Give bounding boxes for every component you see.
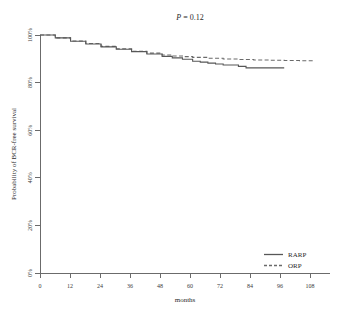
kaplan-meier-figure: P=0.12 100% 80% 60% 40% 20% 0% 0 12 [0,0,345,312]
x-tick-label: 60 [187,283,193,289]
x-tick-label: 96 [277,283,283,289]
plot-title-value: 0.12 [190,13,204,22]
x-tick-label: 48 [157,283,163,289]
x-tick-label: 0 [39,283,42,289]
y-tick-label: 0% [27,269,33,277]
x-tick-label: 36 [127,283,133,289]
x-tick-label: 72 [217,283,223,289]
x-tick-label: 108 [306,283,315,289]
y-tick-label: 60% [27,125,33,136]
y-tick-label: 20% [27,220,33,231]
x-tick-label: 12 [67,283,73,289]
survival-curve-orp [40,35,315,61]
legend-label-orp: ORP [288,262,302,270]
km-survival-chart: P=0.12 100% 80% 60% 40% 20% 0% 0 12 [0,0,345,312]
survival-curve-rarp [40,35,284,68]
y-axis-title: Probability of BCR-free survival [10,108,18,200]
plot-title-statistic: P [175,13,181,22]
plot-title-operator: = [183,13,188,22]
y-tick-label: 100% [27,28,33,42]
x-tick-label: 24 [97,283,103,289]
legend-label-rarp: RARP [288,251,306,259]
x-axis-title: months [175,296,196,304]
plot-title: P=0.12 [175,13,203,22]
x-tick-label: 84 [247,283,253,289]
y-tick-label: 40% [27,172,33,183]
y-axis-ticks: 100% 80% 60% 40% 20% 0% [27,28,40,277]
x-axis-ticks: 0 12 24 36 48 60 72 84 96 108 [39,273,315,289]
y-tick-label: 80% [27,77,33,88]
chart-legend: RARP ORP [264,251,306,270]
